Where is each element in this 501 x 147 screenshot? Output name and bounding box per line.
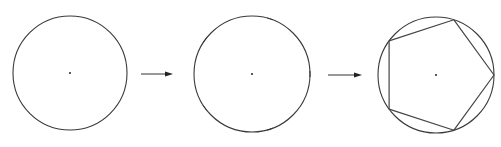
step-3-inscribed-pentagon <box>389 20 494 130</box>
arrow-1-head <box>165 72 173 77</box>
pentagon-construction-diagram <box>0 0 501 147</box>
arrow-1 <box>141 72 173 77</box>
arrow-2 <box>328 73 362 78</box>
division-tick <box>203 37 207 42</box>
arrow-2-head <box>354 73 362 78</box>
division-tick <box>267 128 273 130</box>
division-tick <box>203 106 207 111</box>
step-3-center-dot <box>435 74 437 76</box>
step-2-group <box>194 16 310 132</box>
division-tick <box>267 18 273 20</box>
step-2-center-dot <box>251 73 253 75</box>
step-1-center-dot <box>69 72 71 74</box>
step-3-group <box>378 17 494 133</box>
step-1-group <box>13 16 127 130</box>
